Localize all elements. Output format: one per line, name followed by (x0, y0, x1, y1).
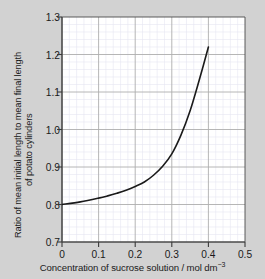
x-tick-label: 0.4 (193, 249, 223, 260)
x-axis-label: Concentration of sucrose solution / mol … (0, 261, 265, 273)
x-tick-label: 0.1 (84, 249, 114, 260)
x-tick-label: 0 (47, 249, 77, 260)
x-tick-label: 0.2 (120, 249, 150, 260)
chart-figure: Ratio of mean initial length to mean fin… (0, 0, 265, 279)
x-axis-tick-labels: 0 0.1 0.2 0.3 0.4 0.5 (0, 0, 265, 279)
x-tick-label: 0.5 (230, 249, 260, 260)
x-tick-label: 0.3 (157, 249, 187, 260)
x-axis-label-exponent: −3 (217, 261, 225, 268)
x-axis-label-text: Concentration of sucrose solution / mol … (40, 262, 218, 273)
